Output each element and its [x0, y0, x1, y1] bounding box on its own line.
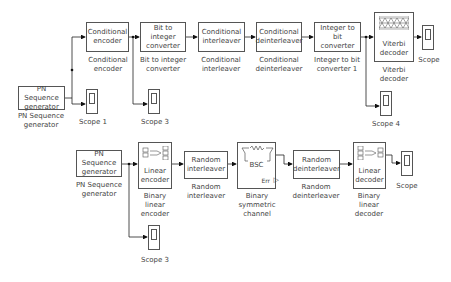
conditional-encoder-caption: Conditional encoder: [88, 56, 128, 74]
scope-2-caption: Scope: [396, 182, 417, 191]
linear-encoder-block[interactable]: Linear encoder: [138, 142, 172, 189]
junction-dot: [71, 69, 74, 72]
linear-encoder-label: Linear encoder: [141, 167, 170, 185]
conditional-interleaver-block[interactable]: Conditional interleaver: [198, 22, 245, 52]
scope3-2-caption: Scope 3: [141, 256, 169, 265]
scope-2-block[interactable]: [401, 151, 413, 176]
linear-code-icon: [357, 146, 385, 160]
random-interleaver-block[interactable]: Random interleaver: [184, 151, 228, 179]
bit-to-integer-converter-caption: Bit to integer converter: [140, 56, 186, 74]
linear-decoder-caption: Binary linear decoder: [355, 192, 384, 219]
trellis-icon: [379, 16, 409, 30]
integer-to-bit-converter-caption: Integer to bit converter 1: [314, 56, 360, 74]
scope1-caption: Scope 1: [79, 118, 107, 127]
random-deinterleaver-caption: Random deinterleaver: [293, 183, 340, 201]
wire-linear-decoder-to-scope: [386, 155, 400, 163]
binary-symmetric-channel-caption: Binary symmetric channel: [238, 192, 275, 219]
scope3-block[interactable]: [148, 89, 160, 114]
linear-decoder-label: Linear decoder: [355, 167, 384, 185]
pn-sequence-generator-caption: PN Sequence generator: [18, 112, 64, 130]
scope-block[interactable]: [422, 25, 434, 50]
linear-code-icon: [142, 146, 170, 160]
binary-symmetric-channel-block[interactable]: BSC Err ▷: [237, 142, 276, 189]
err-port-icon: ▷: [274, 176, 279, 185]
conditional-interleaver-caption: Conditional interleaver: [201, 56, 241, 74]
pn-sequence-generator-block[interactable]: PN Sequence generator: [18, 86, 65, 110]
integer-to-bit-converter-block[interactable]: Integer to bit converter: [314, 22, 361, 52]
channel-icon: [240, 145, 275, 163]
pn-sequence-generator-2-caption: PN Sequence generator: [76, 181, 122, 199]
viterbi-decoder-block[interactable]: Viterbi decoder: [374, 12, 414, 62]
scope3-caption: Scope 3: [141, 118, 169, 127]
viterbi-decoder-caption: Viterbi decoder: [380, 66, 409, 84]
scope-caption: Scope: [418, 56, 439, 65]
random-interleaver-caption: Random interleaver: [187, 183, 225, 201]
conditional-encoder-block[interactable]: Conditional encoder: [86, 22, 129, 52]
scope4-block[interactable]: [380, 91, 392, 116]
linear-decoder-block[interactable]: Linear decoder: [353, 142, 386, 189]
viterbi-decoder-label: Viterbi decoder: [380, 40, 409, 58]
random-deinterleaver-block[interactable]: Random deinterleaver: [293, 150, 340, 179]
scope1-block[interactable]: [86, 89, 98, 114]
wire-pn-to-cond-encoder: [64, 37, 85, 98]
bit-to-integer-converter-block[interactable]: Bit to integer converter: [140, 22, 186, 52]
wire-bsc-to-random-deinterleaver: [276, 155, 292, 164]
conditional-deinterleaver-caption: Conditional deinterleaver: [256, 56, 303, 74]
scope3-2-block[interactable]: [148, 225, 160, 250]
scope4-caption: Scope 4: [372, 120, 400, 129]
linear-encoder-caption: Binary linear encoder: [141, 192, 170, 219]
wire-pn-to-scope1: [72, 98, 85, 104]
junction-dot: [128, 163, 131, 166]
err-port-label: Err: [261, 176, 270, 185]
conditional-deinterleaver-block[interactable]: Conditional deinterleaver: [256, 22, 302, 52]
pn-sequence-generator-2-block[interactable]: PN Sequence generator: [76, 150, 122, 177]
junction-dot: [132, 36, 135, 39]
junction-dot: [365, 36, 368, 39]
